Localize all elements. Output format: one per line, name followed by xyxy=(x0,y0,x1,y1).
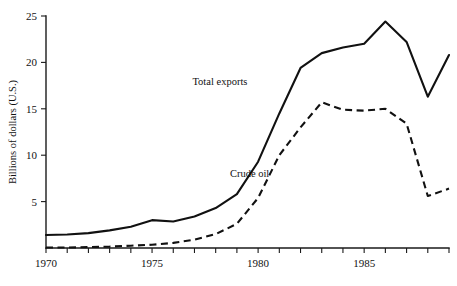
y-axis-group: 510152025 Billions of dollars (U.S.) xyxy=(7,10,46,248)
y-axis-ticks: 510152025 xyxy=(26,10,46,208)
x-axis-group: 1970197519801985 xyxy=(35,248,449,269)
y-tick-label: 20 xyxy=(26,56,38,68)
line-chart-canvas: 510152025 Billions of dollars (U.S.) 197… xyxy=(0,0,457,286)
y-tick-label: 5 xyxy=(32,196,38,208)
x-tick-label: 1985 xyxy=(353,257,376,269)
crude-oil-series-label: Crude oil xyxy=(230,168,269,179)
y-tick-label: 10 xyxy=(26,149,38,161)
total-exports-series-label: Total exports xyxy=(192,76,247,87)
series-group xyxy=(46,22,449,248)
y-axis-title: Billions of dollars (U.S.) xyxy=(7,79,19,184)
chart-figure: 510152025 Billions of dollars (U.S.) 197… xyxy=(0,0,457,286)
x-axis-ticks: 1970197519801985 xyxy=(35,248,449,269)
x-tick-label: 1970 xyxy=(35,257,58,269)
x-tick-label: 1975 xyxy=(141,257,164,269)
y-tick-label: 25 xyxy=(26,10,38,22)
x-tick-label: 1980 xyxy=(247,257,270,269)
y-tick-label: 15 xyxy=(26,103,38,115)
total-exports-series-line xyxy=(46,22,449,235)
